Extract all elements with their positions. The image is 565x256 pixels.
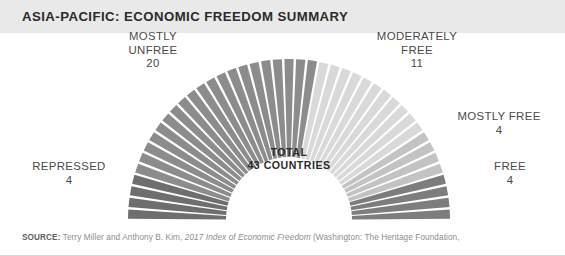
source-note: SOURCE: Terry Miller and Anthony B. Kim,… [22,233,460,242]
callout-mostly-free: MOSTLY FREE 4 [437,97,561,151]
source-text-before: Terry Miller and Anthony B. Kim, [60,233,184,242]
total-label: TOTAL [219,146,359,159]
callout-repressed-name: REPRESSED [32,160,105,172]
callout-repressed: REPRESSED 4 [6,147,132,201]
total-value: 43 COUNTRIES [219,159,359,172]
source-title-italic: 2017 Index of Economic Freedom [185,233,311,242]
callout-mostly-unfree-count: 20 [93,57,213,70]
callout-free: FREE 4 [460,147,560,201]
callout-mostly-free-count: 4 [437,124,561,137]
infographic-frame: ASIA-PACIFIC: ECONOMIC FREEDOM SUMMARY M… [0,0,565,256]
callout-mostly-unfree-name: MOSTLY UNFREE [129,30,178,55]
callout-mostly-unfree: MOSTLY UNFREE 20 [93,17,213,84]
callout-moderately-free: MODERATELY FREE 11 [354,17,480,84]
callout-repressed-count: 4 [6,174,132,187]
callout-moderately-free-count: 11 [354,57,480,70]
chart-center-total: TOTAL 43 COUNTRIES [219,146,359,172]
source-lead: SOURCE: [22,233,60,242]
callout-mostly-free-name: MOSTLY FREE [457,110,540,122]
slice-mostly-unfree-unit-18 [284,59,293,157]
callout-free-name: FREE [494,160,526,172]
source-text-after: (Washington: The Heritage Foundation, [311,233,460,242]
callout-moderately-free-name: MODERATELY FREE [377,30,457,55]
callout-free-count: 4 [460,174,560,187]
